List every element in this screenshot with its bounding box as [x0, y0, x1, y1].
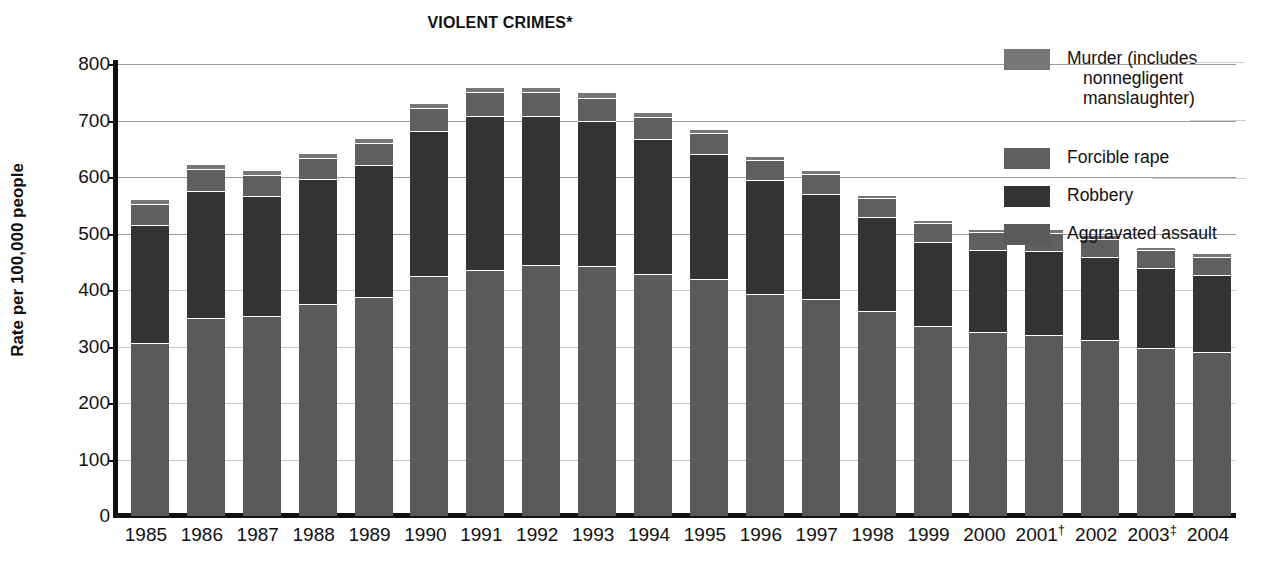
bar-segment-aggravated [858, 312, 896, 516]
bar-segment-aggravated [634, 275, 672, 516]
bar-segment-forcible [858, 199, 896, 218]
y-tick-label-800: 800 [56, 54, 110, 73]
bar-1995[interactable] [690, 130, 728, 516]
bar-segment-forcible [522, 93, 560, 117]
y-axis-title: Rate per 100,000 people [8, 130, 28, 390]
scan-artifact-line [1186, 62, 1244, 63]
bar-segment-aggravated [187, 319, 225, 516]
bar-segment-murder [858, 196, 896, 199]
bar-segment-murder [355, 139, 393, 144]
bar-1998[interactable] [858, 196, 896, 516]
y-tick-label-200: 200 [56, 393, 110, 412]
bar-segment-forcible [410, 109, 448, 132]
bar-2004[interactable] [1193, 254, 1231, 516]
bar-segment-robbery [131, 226, 169, 344]
bar-segment-forcible [131, 205, 169, 226]
bar-segment-robbery [578, 122, 616, 267]
bar-segment-murder [522, 88, 560, 93]
bar-segment-forcible [690, 134, 728, 155]
bar-2001[interactable] [1025, 230, 1063, 516]
bar-1996[interactable] [746, 157, 784, 516]
bar-segment-robbery [690, 155, 728, 280]
bar-segment-forcible [914, 224, 952, 243]
bar-segment-robbery [914, 243, 952, 328]
bar-segment-aggravated [746, 295, 784, 516]
legend-swatch [1004, 148, 1050, 169]
bar-segment-murder [746, 157, 784, 161]
y-tick-label-100: 100 [56, 450, 110, 469]
bar-1988[interactable] [299, 154, 337, 516]
bar-1987[interactable] [243, 171, 281, 516]
violent-crimes-chart: VIOLENT CRIMES* Rate per 100,000 people … [0, 0, 1287, 573]
bar-segment-robbery [634, 140, 672, 274]
bar-segment-forcible [578, 99, 616, 122]
bar-2003[interactable] [1137, 248, 1175, 516]
bar-segment-robbery [466, 117, 504, 271]
bar-segment-aggravated [410, 277, 448, 516]
bar-segment-murder [131, 200, 169, 205]
bar-segment-aggravated [131, 344, 169, 516]
bar-segment-forcible [466, 93, 504, 117]
bar-segment-forcible [802, 175, 840, 195]
bar-segment-aggravated [1081, 341, 1119, 516]
bar-1989[interactable] [355, 139, 393, 516]
bar-segment-robbery [1137, 269, 1175, 349]
bar-segment-aggravated [1025, 336, 1063, 516]
y-tick-400 [109, 290, 118, 292]
legend-swatch [1004, 49, 1050, 70]
scan-artifact-line [1190, 120, 1246, 121]
bar-1999[interactable] [914, 221, 952, 516]
y-tick-label-400: 400 [56, 280, 110, 299]
bar-1986[interactable] [187, 165, 225, 516]
legend-label: Aggravated assault [1067, 223, 1217, 243]
bar-1991[interactable] [466, 88, 504, 516]
bar-segment-murder [299, 154, 337, 159]
legend-label: Murder (includesnonnegligentmanslaughter… [1067, 48, 1197, 108]
bar-segment-aggravated [522, 266, 560, 516]
bar-segment-robbery [802, 195, 840, 300]
gridline-400 [118, 290, 1236, 291]
bar-segment-murder [1137, 248, 1175, 251]
bar-segment-robbery [522, 117, 560, 266]
bar-1994[interactable] [634, 113, 672, 516]
y-tick-label-500: 500 [56, 224, 110, 243]
bar-2000[interactable] [969, 230, 1007, 516]
bar-segment-robbery [1025, 252, 1063, 336]
bar-1992[interactable] [522, 88, 560, 516]
bar-segment-robbery [355, 166, 393, 298]
bar-1993[interactable] [578, 93, 616, 516]
y-tick-100 [109, 460, 118, 462]
y-tick-label-300: 300 [56, 337, 110, 356]
bar-segment-murder [914, 221, 952, 224]
y-tick-600 [109, 177, 118, 179]
bar-1990[interactable] [410, 104, 448, 516]
legend-item-aggravated[interactable]: Aggravated assault [1004, 223, 1217, 245]
bar-segment-aggravated [299, 305, 337, 516]
bar-segment-robbery [1193, 276, 1231, 353]
bar-segment-aggravated [914, 327, 952, 516]
bar-2002[interactable] [1081, 236, 1119, 516]
bar-segment-murder [634, 113, 672, 118]
chart-title: VIOLENT CRIMES* [0, 14, 1000, 32]
legend-item-robbery[interactable]: Robbery [1004, 185, 1133, 207]
gridline-100 [118, 460, 1236, 461]
y-tick-700 [109, 121, 118, 123]
bar-segment-forcible [243, 176, 281, 197]
bar-segment-robbery [187, 192, 225, 320]
legend-item-murder[interactable]: Murder (includesnonnegligentmanslaughter… [1004, 48, 1197, 108]
y-tick-label-0: 0 [56, 506, 110, 525]
bar-segment-murder [243, 171, 281, 176]
legend-swatch [1004, 186, 1050, 207]
bar-segment-aggravated [1193, 353, 1231, 516]
legend-label: Forcible rape [1067, 147, 1169, 167]
bar-segment-murder [578, 93, 616, 99]
legend-item-forcible[interactable]: Forcible rape [1004, 147, 1169, 169]
bar-1997[interactable] [802, 171, 840, 516]
bar-segment-forcible [634, 118, 672, 140]
gridline-300 [118, 347, 1236, 348]
plot-area [118, 64, 1236, 516]
bar-1985[interactable] [131, 200, 169, 516]
bar-segment-forcible [1193, 258, 1231, 276]
bar-segment-forcible [969, 233, 1007, 251]
bar-segment-murder [1193, 254, 1231, 257]
